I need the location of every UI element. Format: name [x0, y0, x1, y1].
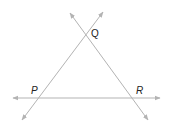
line-qr [70, 13, 148, 120]
diagram-canvas: P Q R [0, 0, 171, 130]
point-label-r: R [136, 85, 143, 96]
point-label-q: Q [91, 28, 99, 39]
point-label-p: P [31, 85, 38, 96]
